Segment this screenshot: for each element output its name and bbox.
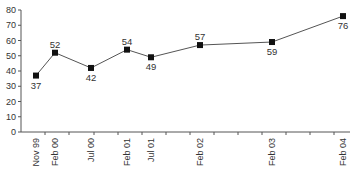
y-tick-label: 40 [6,66,16,76]
y-tick-label: 20 [6,97,16,107]
x-tick-label: Feb 03 [267,138,277,166]
data-point-marker [269,39,275,45]
x-tick-label: Feb 00 [50,138,60,166]
data-label: 49 [146,61,157,72]
data-point-marker [124,47,130,53]
x-tick-label: Feb 01 [122,138,132,166]
data-series [33,13,346,78]
x-axis: Nov 99Feb 00Jul 00Feb 01Jul 01Feb 02Feb … [21,132,350,167]
x-tick-label: Jul 01 [146,138,156,162]
y-tick-label: 70 [6,20,16,30]
data-label: 76 [338,20,349,31]
data-point-marker [197,42,203,48]
x-tick-label: Jul 00 [86,138,96,162]
line-chart: 01020304050607080 Nov 99Feb 00Jul 00Feb … [0,0,354,173]
data-label: 37 [31,80,42,91]
data-point-marker [52,50,58,56]
y-tick-label: 30 [6,81,16,91]
data-label: 42 [86,72,97,83]
x-tick-label: Feb 04 [338,138,348,166]
y-tick-label: 80 [6,5,16,15]
y-tick-label: 10 [6,112,16,122]
data-label: 52 [50,39,61,50]
data-point-marker [340,13,346,19]
y-tick-label: 0 [11,127,16,137]
data-label: 57 [195,31,206,42]
data-labels: 3752425449575976 [31,20,349,90]
y-axis: 01020304050607080 [6,5,21,137]
data-label: 54 [122,36,133,47]
data-point-marker [148,54,154,60]
series-line [36,16,343,75]
x-tick-label: Feb 02 [195,138,205,166]
data-point-marker [88,65,94,71]
y-tick-label: 60 [6,36,16,46]
x-tick-label: Nov 99 [31,138,41,167]
data-label: 59 [267,46,278,57]
y-tick-label: 50 [6,51,16,61]
data-point-marker [33,73,39,79]
